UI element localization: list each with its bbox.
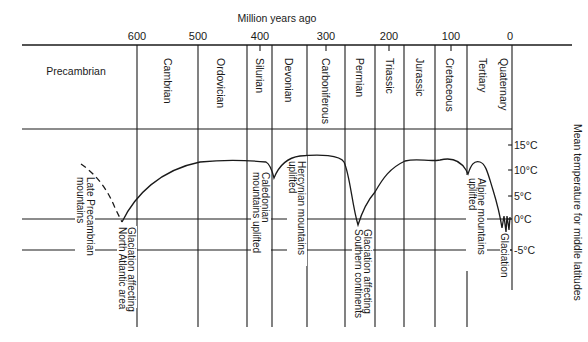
x-tick-100: 100 (442, 30, 460, 42)
y-tick-0: 0°C (514, 213, 532, 225)
period-triassic: Triassic (384, 58, 396, 94)
x-tick-400: 400 (251, 30, 269, 42)
y-tick-5: 5°C (514, 190, 532, 202)
period-labels-vertical: Cambrian Ordovician Silurian Devonian Ca… (162, 58, 510, 124)
y-axis-title: Mean temperature for middle latitudes (572, 124, 584, 301)
annotation-glaciation-southern-continents: Glaciation affecting Southern continents (353, 229, 373, 318)
x-axis-title: Million years ago (238, 12, 317, 24)
period-precambrian: Precambrian (46, 65, 106, 77)
annotation-glaciation-north-atlantic: Glaciation affecting North Atlantic area (117, 227, 137, 312)
y-tick-labels: 15°C 10°C 5°C 0°C -5°C (514, 139, 538, 256)
x-tick-0: 0 (507, 30, 513, 42)
annotation-glaciation-quaternary: Glaciation (499, 233, 510, 277)
temperature-curve (122, 155, 510, 232)
period-carboniferous: Carboniferous (320, 58, 332, 124)
annotation-text: uplifted (467, 178, 478, 210)
x-tick-labels: 600 500 400 300 200 100 0 (128, 30, 513, 42)
x-tick-600: 600 (128, 30, 146, 42)
period-tertiary: Tertiary (477, 58, 489, 93)
y-tick-minus5: -5°C (514, 244, 536, 256)
annotation-text: mountains (75, 177, 86, 223)
y-tick-10: 10°C (514, 164, 538, 176)
period-silurian: Silurian (254, 58, 266, 93)
period-devonian: Devonian (283, 58, 295, 103)
period-jurassic: Jurassic (414, 58, 426, 97)
x-tick-300: 300 (317, 30, 335, 42)
y-tick-15: 15°C (514, 139, 538, 151)
annotation-text: Southern continents (353, 229, 364, 318)
annotation-text: mountains uplifted (251, 172, 262, 253)
period-cretaceous: Cretaceous (444, 58, 456, 112)
geologic-temperature-chart: Million years ago 600 500 400 300 200 10… (0, 0, 588, 342)
period-quaternary: Quaternary (498, 58, 510, 111)
period-cambrian: Cambrian (162, 58, 174, 104)
annotation-text: North Atlantic area (117, 227, 128, 310)
x-tick-200: 200 (380, 30, 398, 42)
annotation-text: uplifted (287, 161, 298, 193)
period-permian: Permian (354, 58, 366, 97)
period-ordovician: Ordovician (215, 58, 227, 108)
annotation-text: Glaciation (499, 233, 510, 277)
x-tick-500: 500 (189, 30, 207, 42)
x-tick-marks (260, 45, 451, 51)
